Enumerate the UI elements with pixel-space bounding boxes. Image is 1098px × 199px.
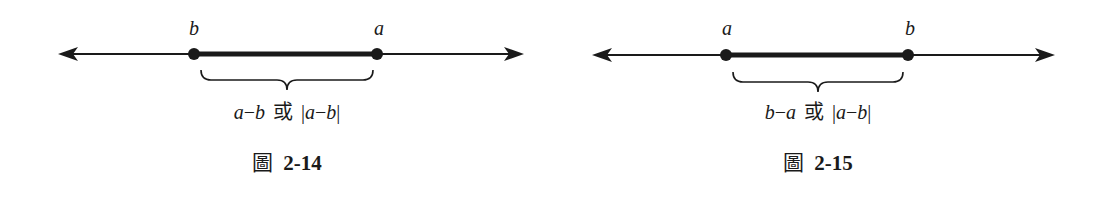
figure-caption: 圖2-14 [252,151,322,175]
distance-brace [733,72,903,92]
point-right-label: b [905,17,915,39]
point-right [371,48,383,60]
figure-2-15: a b b−a或|a−b| 圖2-15 [592,17,1055,175]
figure-2-14: b a a−b或|a−b| 圖2-14 [58,17,524,175]
point-left [188,48,200,60]
figure-caption: 圖2-15 [783,151,853,175]
point-left-label: a [722,17,732,39]
distance-expression: a−b或|a−b| [234,100,341,124]
distance-brace [201,70,373,90]
point-left [720,49,732,61]
point-right-label: a [374,17,384,39]
point-right [902,49,914,61]
point-left-label: b [189,17,199,39]
number-line-diagrams: b a a−b或|a−b| 圖2-14 a b b−a或|a−b| 圖2-15 [0,0,1098,199]
distance-expression: b−a或|a−b| [765,100,872,124]
